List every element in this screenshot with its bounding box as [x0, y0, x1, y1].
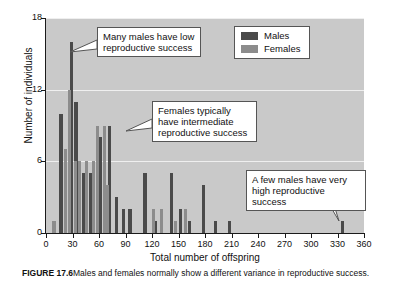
- x-tick-label-300: 300: [296, 240, 326, 249]
- caption-text: Males and females normally show a differ…: [73, 268, 369, 278]
- x-tick-360: [364, 234, 365, 238]
- x-tick-60: [99, 234, 100, 238]
- x-axis-title: Total number of offspring: [46, 252, 364, 263]
- y-tick-label-0: 0: [16, 228, 42, 237]
- x-tick-label-90: 90: [111, 240, 141, 249]
- x-tick-label-180: 180: [190, 240, 220, 249]
- legend-swatch-females-icon: [241, 45, 258, 53]
- x-tick-label-360: 360: [349, 240, 379, 249]
- x-tick-label-270: 270: [270, 240, 300, 249]
- bar-males-x88: [122, 209, 125, 233]
- x-tick-330: [338, 234, 339, 238]
- bar-males-x80: [115, 197, 118, 233]
- bar-males-x152: [179, 209, 182, 233]
- bar-males-x336: [341, 221, 344, 233]
- x-tick-label-0: 0: [31, 240, 61, 249]
- bar-females-x147: [174, 221, 177, 233]
- bar-females-x158: [184, 209, 187, 233]
- bar-females-x9: [52, 221, 55, 233]
- x-tick-180: [205, 234, 206, 238]
- bar-females-x46: [85, 161, 88, 233]
- figure-container: 18 12 6 0 030609012015018021024027030033…: [0, 0, 410, 282]
- bar-females-x38: [78, 161, 81, 233]
- bar-males-x142: [170, 173, 173, 233]
- x-tick-label-60: 60: [84, 240, 114, 249]
- callout-males-low-success: Many males have low reproductive success: [97, 27, 201, 57]
- x-tick-label-330: 330: [323, 240, 353, 249]
- bar-males-x162: [188, 221, 191, 233]
- x-tick-240: [258, 234, 259, 238]
- legend-label-males: Males: [264, 31, 289, 41]
- legend-item-females: Females: [241, 44, 300, 54]
- x-tick-300: [311, 234, 312, 238]
- bar-males-x17: [59, 114, 62, 233]
- bar-females-x27: [68, 90, 71, 233]
- callout-males-high-success: A few males have very high reproductive …: [246, 170, 366, 211]
- x-tick-label-150: 150: [164, 240, 194, 249]
- bar-males-x192: [214, 221, 217, 233]
- x-tick-label-120: 120: [137, 240, 167, 249]
- x-tick-210: [232, 234, 233, 238]
- x-tick-270: [285, 234, 286, 238]
- bar-females-x122: [152, 209, 155, 233]
- y-axis-title: Number of individuals: [23, 21, 34, 171]
- x-tick-90: [126, 234, 127, 238]
- x-tick-120: [152, 234, 153, 238]
- bar-females-x131: [160, 209, 163, 233]
- bar-females-x58: [96, 126, 99, 234]
- bar-males-x112: [143, 173, 146, 233]
- x-tick-30: [73, 234, 74, 238]
- figure-number: FIGURE 17.6: [22, 268, 73, 278]
- x-tick-label-210: 210: [217, 240, 247, 249]
- bar-females-x70: [106, 185, 109, 233]
- x-tick-label-240: 240: [243, 240, 273, 249]
- bar-females-x33: [74, 161, 77, 233]
- figure-caption: FIGURE 17.6Males and females normally sh…: [22, 268, 394, 279]
- bar-males-x178: [202, 185, 205, 233]
- legend-swatch-males-icon: [241, 32, 258, 40]
- x-tick-0: [46, 234, 47, 238]
- bar-males-x95: [128, 209, 131, 233]
- legend: Males Females: [234, 26, 310, 59]
- legend-item-males: Males: [241, 31, 300, 41]
- bar-females-x22: [64, 149, 67, 233]
- legend-label-females: Females: [264, 44, 300, 54]
- bar-males-x208: [228, 221, 231, 233]
- x-tick-label-30: 30: [58, 240, 88, 249]
- y-axis-line: [45, 18, 46, 234]
- x-tick-150: [179, 234, 180, 238]
- callout-females-intermediate: Females typically have intermediate repr…: [152, 101, 257, 142]
